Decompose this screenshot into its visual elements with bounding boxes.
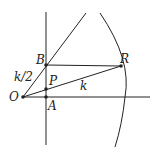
point-O: [21, 95, 25, 99]
label-P: P: [48, 74, 58, 88]
label-B: B: [35, 53, 45, 67]
point-P: [44, 87, 48, 91]
label-O: O: [9, 90, 19, 104]
segment-OR: [23, 66, 121, 97]
label-k: k: [80, 79, 87, 93]
label-R: R: [119, 52, 129, 66]
geometry-diagram: O A P B R k/2 k: [0, 0, 159, 152]
label-A: A: [47, 99, 57, 113]
arc: [100, 13, 126, 147]
segment-BR: [46, 65, 121, 66]
label-k-half: k/2: [14, 70, 33, 84]
